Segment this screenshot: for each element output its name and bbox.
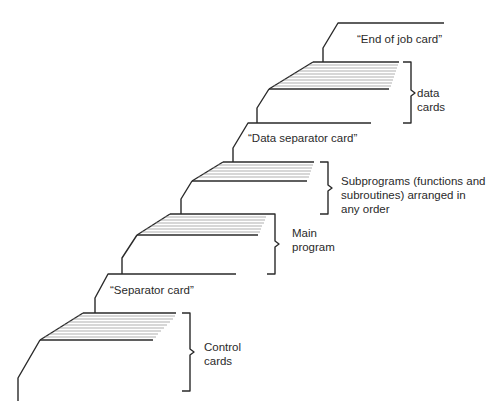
- card-deck-diagram: “End of job card” data cards “Data separ…: [0, 0, 493, 418]
- control-cards-edges: [45, 316, 175, 337]
- separator-card-label: “Separator card”: [110, 283, 194, 297]
- data-cards-brace: [403, 62, 415, 123]
- subprograms-brace: [320, 162, 332, 214]
- subprograms-label-line1: Subprograms (functions and: [341, 174, 485, 188]
- data-separator-card-label: “Data separator card”: [248, 131, 357, 145]
- control-cards-label-line2: cards: [204, 354, 232, 368]
- main-program-brace: [267, 214, 279, 274]
- data-cards-label-line1: data: [417, 86, 439, 100]
- control-cards-brace: [182, 313, 194, 391]
- subprograms-deck: [181, 162, 314, 214]
- end-of-job-card-label: “End of job card”: [357, 32, 442, 46]
- control-cards-label-line1: Control: [204, 340, 241, 354]
- subprograms-label-line2: subroutines) arranged in: [341, 188, 466, 202]
- main-program-label-line2: program: [292, 240, 335, 254]
- control-cards-deck: [18, 313, 176, 401]
- data-cards-label-line2: cards: [417, 100, 445, 114]
- subprograms-label-line3: any order: [341, 202, 390, 216]
- data-cards-edges: [274, 65, 398, 86]
- diagram-drawing: [0, 0, 493, 418]
- main-program-label-line1: Main: [292, 226, 317, 240]
